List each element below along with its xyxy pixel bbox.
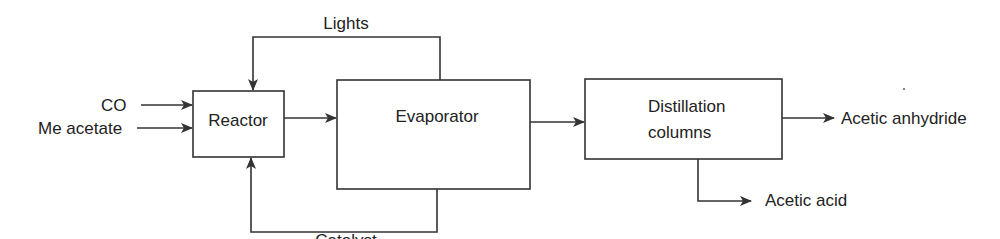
catalyst-label: Catalyst <box>315 231 377 239</box>
evaporator-box <box>337 80 530 189</box>
evaporator-label: Evaporator <box>395 107 478 126</box>
input-me-acetate-label: Me acetate <box>38 119 122 138</box>
acetic-anhydride-label: Acetic anhydride <box>841 109 967 128</box>
distillation-label-line2: columns <box>648 123 711 142</box>
reactor-label: Reactor <box>208 111 268 130</box>
input-co-label: CO <box>101 96 127 115</box>
distillation-label-line1: Distillation <box>648 97 725 116</box>
speck <box>903 88 905 90</box>
process-flow-diagram: CO Me acetate Reactor Evaporator Lights … <box>0 0 1000 239</box>
lights-label: Lights <box>323 14 368 33</box>
distillation-box <box>585 79 782 159</box>
acetic-acid-label: Acetic acid <box>765 191 847 210</box>
acetic-acid-arrow <box>698 159 751 201</box>
